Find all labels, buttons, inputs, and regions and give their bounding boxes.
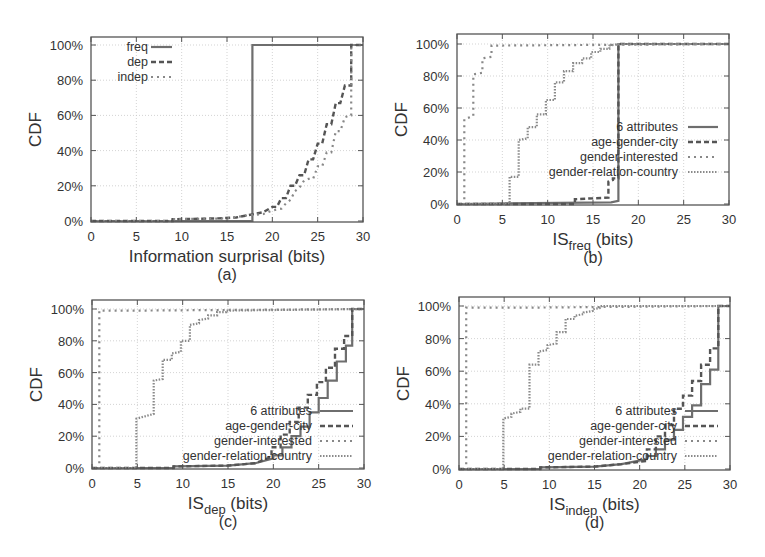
- y-axis-title: CDF: [392, 102, 411, 137]
- x-tick-label: 10: [174, 229, 188, 244]
- legend-label: gender-relation-country: [548, 449, 678, 463]
- x-tick-label: 0: [87, 229, 94, 244]
- legend-label: dep: [127, 55, 148, 69]
- x-tick-label: 30: [722, 212, 736, 227]
- y-tick-label: 20%: [425, 429, 451, 444]
- y-tick-label: 100%: [51, 302, 85, 317]
- x-tick-label: 5: [133, 229, 140, 244]
- y-tick-label: 40%: [57, 144, 83, 159]
- y-tick-label: 100%: [416, 37, 450, 52]
- y-axis-title: CDF: [27, 367, 46, 402]
- legend-label: age-gender-city: [225, 419, 313, 433]
- panel-b: 0510152025300%20%40%60%80%100%CDFISfreq …: [392, 34, 736, 266]
- panel-c: 0510152025300%20%40%60%80%100%CDFISdep (…: [27, 300, 371, 530]
- y-tick-label: 40%: [58, 397, 84, 412]
- legend: 6 attributesage-gender-citygender-intere…: [183, 404, 353, 463]
- x-tick-label: 15: [221, 476, 235, 491]
- legend: 6 attributesage-gender-citygender-intere…: [549, 120, 718, 179]
- legend-label: age-gender-city: [590, 419, 678, 433]
- y-tick-label: 0%: [432, 462, 451, 477]
- y-tick-label: 60%: [425, 364, 451, 379]
- panel-caption: (c): [219, 513, 238, 530]
- x-tick-label: 30: [356, 229, 370, 244]
- x-tick-label: 5: [501, 477, 508, 492]
- y-tick-label: 0%: [64, 214, 83, 229]
- x-tick-label: 25: [678, 477, 692, 492]
- x-tick-label: 30: [723, 477, 737, 492]
- legend: freqdepindep: [117, 40, 172, 84]
- x-tick-label: 15: [220, 229, 234, 244]
- y-tick-label: 80%: [57, 73, 83, 88]
- panel-caption: (b): [583, 249, 603, 266]
- legend-label: 6 attributes: [250, 404, 312, 418]
- x-tick-label: 10: [175, 476, 189, 491]
- legend-label: freq: [126, 40, 148, 54]
- legend-label: 6 attributes: [615, 404, 677, 418]
- x-tick-label: 15: [587, 477, 601, 492]
- legend-label: gender-relation-country: [183, 449, 313, 463]
- x-axis-title-main: IS: [553, 230, 569, 249]
- x-tick-label: 25: [311, 476, 325, 491]
- y-tick-label: 40%: [425, 397, 451, 412]
- x-tick-label: 10: [540, 212, 554, 227]
- y-tick-label: 0%: [65, 461, 84, 476]
- x-tick-label: 5: [134, 476, 141, 491]
- panel-caption: (a): [217, 266, 237, 283]
- x-axis-title-suffix: (bits): [597, 495, 640, 514]
- x-axis-title-suffix: (bits): [226, 494, 269, 513]
- legend-label: 6 attributes: [616, 120, 678, 134]
- y-tick-label: 0%: [430, 197, 449, 212]
- y-tick-label: 20%: [423, 165, 449, 180]
- x-axis-title-main: IS: [188, 494, 204, 513]
- x-tick-label: 5: [499, 212, 506, 227]
- x-axis-title-main: Information surprisal (bits): [129, 247, 326, 266]
- x-tick-label: 20: [265, 229, 279, 244]
- y-tick-label: 80%: [58, 334, 84, 349]
- legend-label: gender-relation-country: [549, 165, 679, 179]
- y-tick-label: 20%: [57, 179, 83, 194]
- x-tick-label: 25: [676, 212, 690, 227]
- x-tick-label: 20: [266, 476, 280, 491]
- legend-label: age-gender-city: [591, 135, 679, 149]
- legend-label: gender-interested: [214, 434, 312, 448]
- y-tick-label: 80%: [425, 332, 451, 347]
- x-tick-label: 0: [453, 212, 460, 227]
- x-tick-label: 20: [632, 477, 646, 492]
- figure: 0510152025300%20%40%60%80%100%CDFInforma…: [0, 0, 765, 557]
- panel-a: 0510152025300%20%40%60%80%100%CDFInforma…: [26, 37, 370, 283]
- y-tick-label: 100%: [50, 38, 84, 53]
- plot-frame: [457, 34, 729, 205]
- x-tick-label: 0: [88, 476, 95, 491]
- x-tick-label: 25: [310, 229, 324, 244]
- y-tick-label: 20%: [58, 429, 84, 444]
- y-axis-title: CDF: [26, 112, 45, 147]
- legend-label: gender-interested: [579, 434, 677, 448]
- x-tick-label: 0: [455, 477, 462, 492]
- legend-label: indep: [117, 70, 148, 84]
- y-tick-label: 60%: [58, 366, 84, 381]
- y-tick-label: 80%: [423, 69, 449, 84]
- x-tick-label: 15: [586, 212, 600, 227]
- x-tick-label: 30: [357, 476, 371, 491]
- x-tick-label: 10: [542, 477, 556, 492]
- x-axis-title-suffix: (bits): [591, 230, 634, 249]
- y-tick-label: 100%: [418, 299, 452, 314]
- panel-d: 0510152025300%20%40%60%80%100%CDFISindep…: [394, 297, 737, 531]
- y-tick-label: 60%: [57, 108, 83, 123]
- x-tick-label: 20: [631, 212, 645, 227]
- x-axis-title-main: IS: [549, 495, 565, 514]
- y-tick-label: 40%: [423, 133, 449, 148]
- x-axis-title: Information surprisal (bits): [129, 247, 326, 266]
- legend-label: gender-interested: [580, 150, 678, 164]
- y-tick-label: 60%: [423, 101, 449, 116]
- panel-caption: (d): [585, 514, 605, 531]
- y-axis-title: CDF: [394, 366, 413, 401]
